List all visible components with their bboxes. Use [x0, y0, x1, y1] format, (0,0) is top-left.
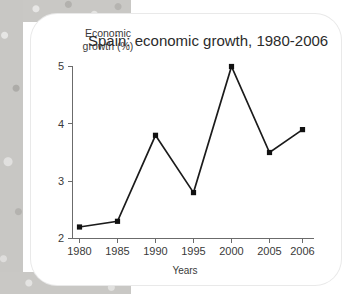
data-point-2000 — [229, 64, 234, 69]
y-tick-label-2: 2 — [58, 232, 64, 244]
y-tick-label-3: 3 — [58, 175, 64, 187]
x-tick-group: 1980 1985 1990 1995 2000 2005 2006 — [67, 239, 314, 258]
data-series-line — [80, 67, 303, 228]
data-point-2005 — [267, 150, 272, 155]
x-tick-label-1990: 1990 — [143, 245, 167, 257]
data-point-1985 — [115, 219, 120, 224]
x-tick-label-2000: 2000 — [219, 245, 243, 257]
x-tick-label-2006: 2006 — [290, 245, 314, 257]
line-chart-plot: 5 4 3 2 1980 1985 1990 1995 2000 2005 20… — [31, 14, 341, 285]
x-tick-label-1980: 1980 — [67, 245, 91, 257]
data-point-2006 — [300, 127, 305, 132]
y-tick-label-5: 5 — [58, 60, 64, 72]
y-tick-label-4: 4 — [58, 118, 64, 130]
data-series-markers — [77, 64, 305, 230]
data-point-1980 — [77, 224, 82, 229]
x-tick-label-2005: 2005 — [257, 245, 281, 257]
data-point-1990 — [153, 133, 158, 138]
x-tick-label-1995: 1995 — [181, 245, 205, 257]
y-tick-group: 5 4 3 2 — [58, 60, 73, 244]
data-point-1995 — [191, 190, 196, 195]
background-texture-left — [0, 0, 23, 294]
x-tick-label-1985: 1985 — [105, 245, 129, 257]
